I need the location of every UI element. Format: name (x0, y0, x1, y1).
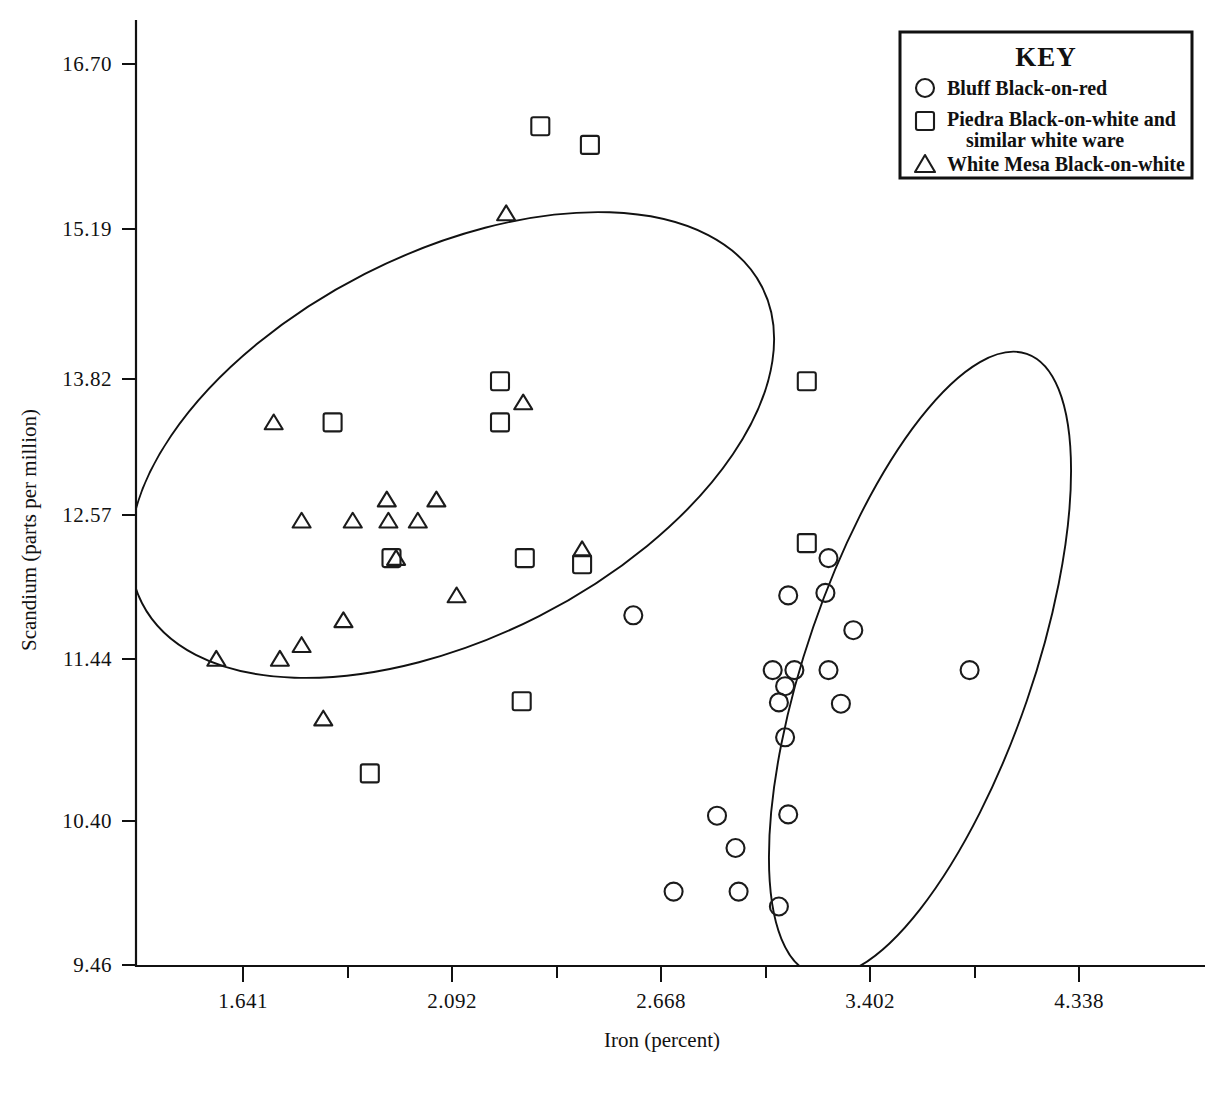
x-tick-labels: 1.641 2.092 2.668 3.402 4.338 (218, 989, 1104, 1013)
triangle-marker (265, 415, 283, 430)
triangle-marker (344, 513, 362, 528)
triangle-marker (387, 550, 405, 565)
triangle-marker (409, 513, 427, 528)
square-marker (324, 413, 342, 431)
y-tick-label: 9.46 (73, 953, 112, 977)
square-marker (573, 555, 591, 573)
square-marker (361, 764, 379, 782)
y-tick-label: 11.44 (63, 647, 112, 671)
circle-marker (770, 693, 788, 711)
circle-marker (624, 606, 642, 624)
circle-marker (727, 839, 745, 857)
legend-entry-label: White Mesa Black-on-white (947, 153, 1185, 175)
circle-marker (779, 805, 797, 823)
legend-entry-label-line2: similar white ware (966, 129, 1124, 151)
square-marker (491, 372, 509, 390)
y-tick-label: 10.40 (62, 809, 112, 833)
circle-marker (844, 621, 862, 639)
square-marker (581, 136, 599, 154)
x-axis-ticks (243, 966, 1079, 982)
circle-marker (708, 807, 726, 825)
y-tick-labels: 16.70 15.19 13.82 12.57 11.44 10.40 9.46 (62, 52, 112, 977)
legend-title: KEY (1015, 42, 1077, 72)
triangle-marker (379, 513, 397, 528)
x-axis-title: Iron (percent) (604, 1028, 720, 1052)
x-tick-label: 1.641 (218, 989, 268, 1013)
circle-marker (961, 661, 979, 679)
x-tick-label: 3.402 (845, 989, 895, 1013)
legend: KEY Bluff Black-on-red Piedra Black-on-w… (900, 32, 1192, 178)
circle-marker (776, 728, 794, 746)
circle-marker (820, 549, 838, 567)
circle-marker (785, 661, 803, 679)
x-tick-label: 4.338 (1054, 989, 1104, 1013)
y-tick-label: 16.70 (62, 52, 112, 76)
triangle-marker (293, 637, 311, 652)
square-marker (491, 413, 509, 431)
triangle-marker (573, 541, 591, 556)
square-marker (516, 549, 534, 567)
circle-marker (832, 695, 850, 713)
triangle-marker (497, 205, 515, 220)
triangle-marker (514, 395, 532, 410)
data-markers-layer (207, 117, 978, 915)
plot-canvas: 16.70 15.19 13.82 12.57 11.44 10.40 9.46… (0, 0, 1225, 1096)
confidence-ellipse-left (55, 116, 849, 774)
triangle-marker (427, 492, 445, 507)
legend-entry-label: Bluff Black-on-red (947, 77, 1107, 99)
y-tick-label: 13.82 (62, 367, 112, 391)
y-tick-label: 12.57 (62, 503, 112, 527)
square-marker (798, 534, 816, 552)
triangle-marker (378, 492, 396, 507)
triangle-marker (314, 711, 332, 726)
y-tick-label: 15.19 (62, 217, 112, 241)
circle-marker (665, 883, 683, 901)
circle-marker (779, 586, 797, 604)
legend-entry-label: Piedra Black-on-white and (947, 108, 1176, 130)
x-tick-label: 2.092 (427, 989, 477, 1013)
square-marker (798, 372, 816, 390)
circle-marker (820, 661, 838, 679)
square-marker (513, 692, 531, 710)
circle-marker (764, 661, 782, 679)
square-marker (531, 117, 549, 135)
y-axis-title: Scandium (parts per million) (17, 409, 41, 651)
triangle-marker (271, 651, 289, 666)
circle-marker (730, 883, 748, 901)
triangle-marker (334, 612, 352, 627)
x-tick-label: 2.668 (636, 989, 686, 1013)
scatter-plot-figure: 16.70 15.19 13.82 12.57 11.44 10.40 9.46… (0, 0, 1225, 1096)
y-axis-ticks (122, 64, 136, 965)
triangle-marker (448, 588, 466, 603)
triangle-marker (293, 513, 311, 528)
